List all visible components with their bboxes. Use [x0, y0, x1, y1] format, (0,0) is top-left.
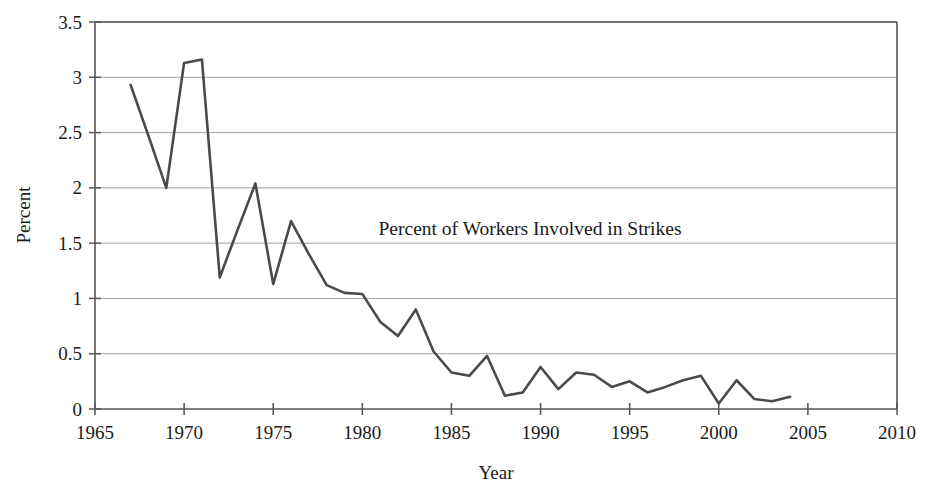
- y-tick-label: 3.5: [58, 12, 82, 33]
- y-tick-label: 0.5: [58, 343, 82, 364]
- y-tick-label: 2.5: [58, 122, 82, 143]
- strikes-line-chart: 00.511.522.533.5 19651970197519801985199…: [0, 0, 935, 498]
- x-tick-label: 2010: [878, 422, 916, 443]
- x-tick-label: 1970: [165, 422, 203, 443]
- x-tick-label: 1965: [76, 422, 114, 443]
- y-tick-label: 3: [73, 67, 83, 88]
- chart-figure: 00.511.522.533.5 19651970197519801985199…: [0, 0, 935, 498]
- x-tick-label: 1985: [432, 422, 470, 443]
- x-tick-label: 2005: [789, 422, 827, 443]
- x-axis-label: Year: [478, 462, 514, 483]
- y-tick-label: 2: [73, 177, 83, 198]
- y-tick-label: 1: [73, 288, 83, 309]
- y-axis-label: Percent: [13, 186, 34, 244]
- x-tick-label: 1980: [343, 422, 381, 443]
- x-tick-label: 2000: [700, 422, 738, 443]
- y-tick-label: 0: [73, 399, 83, 420]
- x-tick-label: 1990: [522, 422, 560, 443]
- series-annotation: Percent of Workers Involved in Strikes: [379, 218, 682, 239]
- x-tick-label: 1975: [254, 422, 292, 443]
- x-tick-label: 1995: [611, 422, 649, 443]
- y-tick-label: 1.5: [58, 233, 82, 254]
